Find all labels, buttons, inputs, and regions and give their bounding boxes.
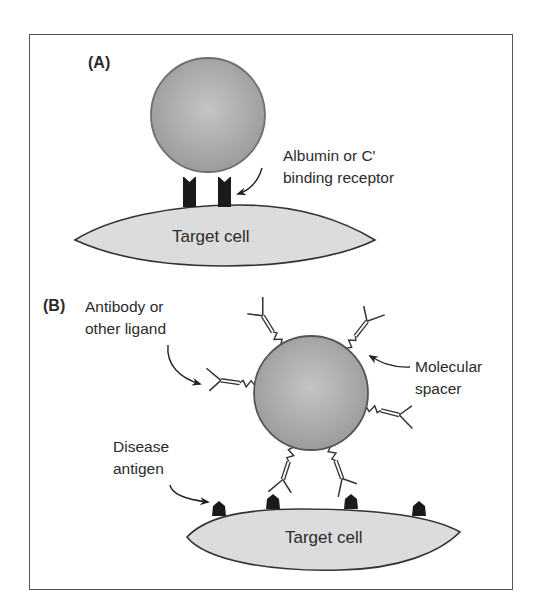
antigen-arrow [170, 485, 208, 502]
ligand-label-line1: Antibody or [85, 297, 163, 316]
ligand [247, 297, 282, 345]
ligand [328, 447, 357, 497]
ligand [206, 368, 254, 391]
arm [268, 480, 282, 492]
spacer [328, 447, 336, 461]
antigen [266, 494, 280, 509]
spacer [240, 380, 255, 386]
arm [364, 306, 367, 321]
antigen-label-line1: Disease [113, 437, 169, 456]
receptor-arrow [238, 168, 262, 194]
stem-line [221, 379, 240, 382]
arm [338, 479, 342, 497]
ligand-label-line2: other ligand [85, 319, 166, 338]
receptor-label-line2: binding receptor [283, 168, 394, 187]
arm [209, 380, 221, 390]
arm [367, 315, 385, 321]
stem-line [284, 462, 290, 480]
spacer-arrow [370, 356, 410, 367]
panel-b-label: (B) [43, 297, 65, 315]
spacer-label-line2: spacer [415, 379, 462, 398]
ligand [268, 447, 293, 493]
arm [342, 479, 357, 484]
particle-b [254, 336, 368, 450]
particle-a [151, 58, 265, 172]
antigen [344, 494, 358, 509]
panel-a-label: (A) [88, 54, 110, 72]
stem-line [334, 461, 340, 479]
ligand [366, 406, 412, 429]
receptor-label-line1: Albumin or C' [283, 146, 376, 165]
spacer-label-line1: Molecular [415, 357, 482, 376]
stem-line [221, 382, 240, 385]
diagram-canvas [0, 0, 542, 612]
spacer [346, 336, 356, 348]
stem-line [337, 460, 343, 478]
stem-line [281, 461, 287, 479]
antigen [212, 501, 226, 516]
arm [247, 314, 262, 316]
ligand [346, 306, 385, 348]
arm [206, 368, 220, 380]
arm [399, 406, 412, 415]
spacer [287, 447, 294, 461]
arm [283, 480, 291, 493]
arm [399, 415, 412, 429]
ligand-arrow [168, 345, 200, 384]
antigen-label-line2: antigen [113, 459, 164, 478]
spacer [273, 332, 282, 345]
target-cell-a-label: Target cell [172, 227, 249, 246]
spacer [366, 406, 381, 413]
target-cell-b-label: Target cell [285, 528, 362, 547]
antigen [412, 501, 426, 516]
